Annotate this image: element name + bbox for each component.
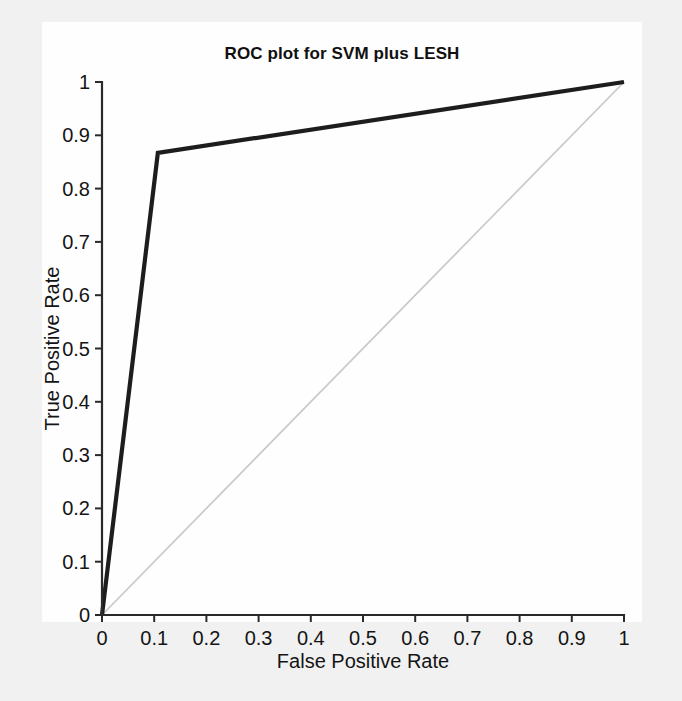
x-tick-label: 0.3 [245, 627, 273, 650]
x-tick-label: 0.7 [453, 627, 481, 650]
roc-plot-figure: ROC plot for SVM plus LESH [0, 0, 682, 701]
x-tick-label: 0.9 [558, 627, 586, 650]
x-tick-label: 0.6 [401, 627, 429, 650]
x-tick-label: 0.8 [506, 627, 534, 650]
x-tick-label: 1 [618, 627, 629, 650]
chart-title: ROC plot for SVM plus LESH [42, 44, 642, 64]
chance-diagonal-line [102, 82, 624, 615]
x-axis-label: False Positive Rate [102, 650, 624, 673]
plot-svg [102, 82, 624, 615]
x-tick-label: 0.4 [297, 627, 325, 650]
y-axis-label: True Positive Rate [41, 82, 69, 615]
x-tick-label: 0.5 [349, 627, 377, 650]
x-tick-label: 0.1 [140, 627, 168, 650]
plot-area [102, 82, 624, 615]
x-tick-label: 0.2 [192, 627, 220, 650]
x-tick-label: 0 [96, 627, 107, 650]
